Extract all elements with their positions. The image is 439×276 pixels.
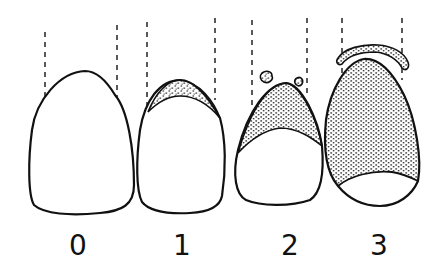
tooth-score-0 [29, 25, 134, 214]
score-label-2: 2 [275, 232, 305, 260]
tooth-score-3 [325, 18, 419, 206]
plaque-fragment [260, 71, 272, 82]
plaque-layer [325, 59, 419, 186]
plaque-fragment [295, 77, 303, 85]
plaque-layer [148, 80, 220, 118]
score-label-0: 0 [63, 232, 93, 260]
score-label-1: 1 [167, 232, 197, 260]
tooth-score-2 [235, 18, 322, 205]
score-label-3: 3 [364, 232, 394, 260]
tooth-score-1 [137, 18, 225, 213]
plaque-layer [238, 83, 322, 153]
